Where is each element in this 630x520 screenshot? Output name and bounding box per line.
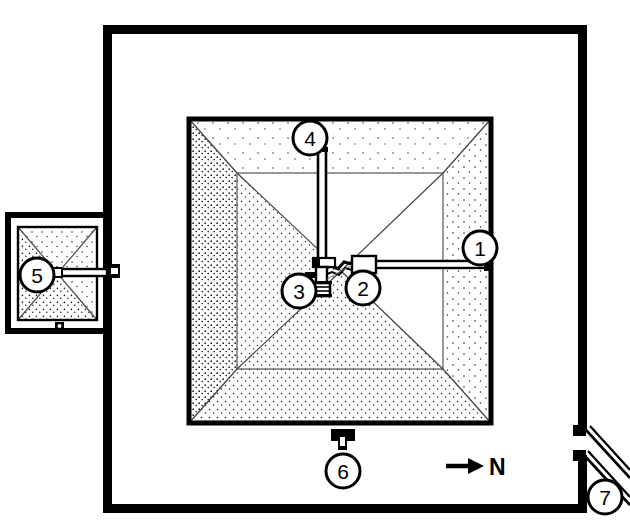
callout-7-label: 7 [599,486,611,509]
satellite-south-marker [55,322,64,329]
satellite-entrance-passage [52,268,107,277]
pyramid-north-face [189,119,491,173]
callout-3[interactable]: 3 [282,274,316,308]
callout-2-label: 2 [357,277,369,300]
pyramid-south-face [189,369,491,423]
callout-4-label: 4 [304,127,316,150]
callout-6-label: 6 [337,460,349,483]
callout-5-label: 5 [31,264,43,287]
callout-6[interactable]: 6 [326,454,360,488]
north-label: N [489,454,506,480]
satellite-gate-structure [108,264,120,278]
callout-2[interactable]: 2 [346,271,380,305]
callout-5[interactable]: 5 [20,258,54,292]
callout-1[interactable]: 1 [463,231,497,265]
site-plan-figure: N 1 2 3 4 5 [0,0,630,520]
callout-3-label: 3 [293,280,305,303]
site-plan-drawing: N 1 2 3 4 5 [0,0,630,520]
north-vertical-shaft [316,147,328,268]
callout-1-label: 1 [474,237,486,260]
callout-7[interactable]: 7 [588,480,622,514]
callout-4[interactable]: 4 [293,121,327,155]
